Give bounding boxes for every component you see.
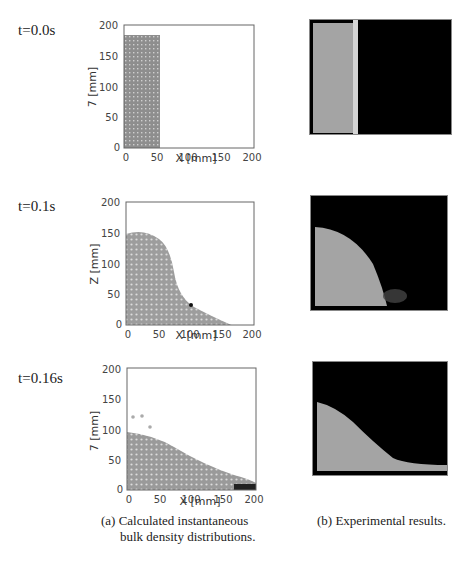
experiment-photo-t016 <box>312 361 448 476</box>
svg-text:100: 100 <box>102 425 121 436</box>
svg-text:100: 100 <box>101 259 120 270</box>
svg-text:50: 50 <box>107 289 120 300</box>
svg-text:50: 50 <box>108 455 121 466</box>
y-axis-label: 7 [mm] <box>86 67 99 108</box>
time-label-2: t=0.16s <box>18 370 63 387</box>
tracer-particle <box>189 303 193 307</box>
svg-text:X [mm]: X [mm] <box>179 495 220 508</box>
xtick-200: 200 <box>242 152 261 163</box>
svg-text:0: 0 <box>117 484 123 495</box>
particle-cloud <box>126 232 232 325</box>
simulation-plot-t016: 200 150 100 50 0 0 50 100 150 200 7 [mm] <box>84 357 269 512</box>
svg-text:X [mm]: X [mm] <box>175 329 216 342</box>
caption-a-line2: bulk density distributions. <box>101 529 255 545</box>
particle-cloud <box>127 432 256 490</box>
plot-svg: 200 150 100 50 0 0 50 100 150 200 7 [mm] <box>84 15 269 170</box>
ytick-150: 150 <box>99 51 118 62</box>
plot-svg: 200 150 100 50 0 0 50 100 150 200 Z [mm] <box>84 192 269 347</box>
particle-column <box>124 35 160 148</box>
svg-text:200: 200 <box>242 329 261 340</box>
svg-text:150: 150 <box>101 228 120 239</box>
xlabel-1: X [mm] <box>161 327 231 343</box>
splash <box>383 289 407 303</box>
plot-svg: 200 150 100 50 0 0 50 100 150 200 7 [mm] <box>84 357 269 512</box>
caption-a: (a) Calculated instantaneous bulk densit… <box>101 513 255 545</box>
ytick-50: 50 <box>105 112 118 123</box>
svg-text:X [mm]: X [mm] <box>175 152 216 165</box>
svg-text:0: 0 <box>126 494 132 505</box>
material-mass <box>317 402 447 471</box>
y-axis-label: Z [mm] <box>88 243 101 284</box>
gate-plate <box>353 20 358 134</box>
time-label-1: t=0.1s <box>18 198 55 215</box>
material-mass <box>315 227 387 306</box>
experiment-photo-t0 <box>309 19 452 135</box>
svg-text:200: 200 <box>101 197 120 208</box>
ytick-100: 100 <box>99 82 118 93</box>
caption-b: (b) Experimental results. <box>317 513 446 529</box>
simulation-plot-t01: 200 150 100 50 0 0 50 100 150 200 Z [mm] <box>84 192 269 347</box>
dense-cluster <box>234 484 256 490</box>
svg-text:0: 0 <box>125 329 131 340</box>
xlabel-2: X [mm] <box>165 493 235 509</box>
ytick-0: 0 <box>114 142 120 153</box>
ytick-200: 200 <box>99 20 118 31</box>
svg-text:150: 150 <box>102 394 121 405</box>
material-column <box>313 23 353 133</box>
time-label-0: t=0.0s <box>18 22 55 39</box>
xtick-0: 0 <box>123 152 129 163</box>
svg-text:0: 0 <box>116 319 122 330</box>
experiment-photo-t01 <box>310 195 448 311</box>
xlabel-0: X [mm] <box>161 150 231 166</box>
svg-text:200: 200 <box>244 494 263 505</box>
simulation-plot-t0: 200 150 100 50 0 0 50 100 150 200 7 [mm] <box>84 15 269 170</box>
caption-a-line1: (a) Calculated instantaneous <box>101 513 255 529</box>
svg-text:200: 200 <box>102 364 121 375</box>
y-axis-label: 7 [mm] <box>88 411 101 452</box>
